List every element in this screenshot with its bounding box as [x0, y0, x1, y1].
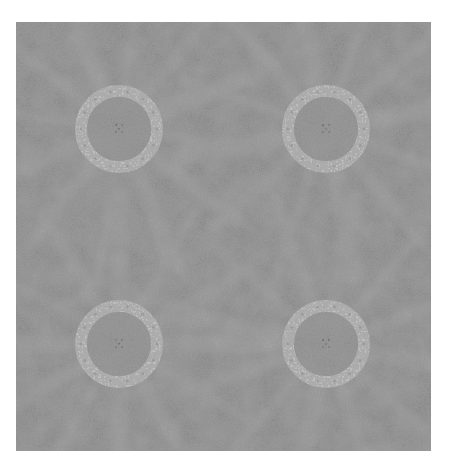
- textured-tile-image: [16, 22, 431, 451]
- grain-layer: [16, 22, 431, 451]
- tile-pattern-graphic: [16, 22, 431, 451]
